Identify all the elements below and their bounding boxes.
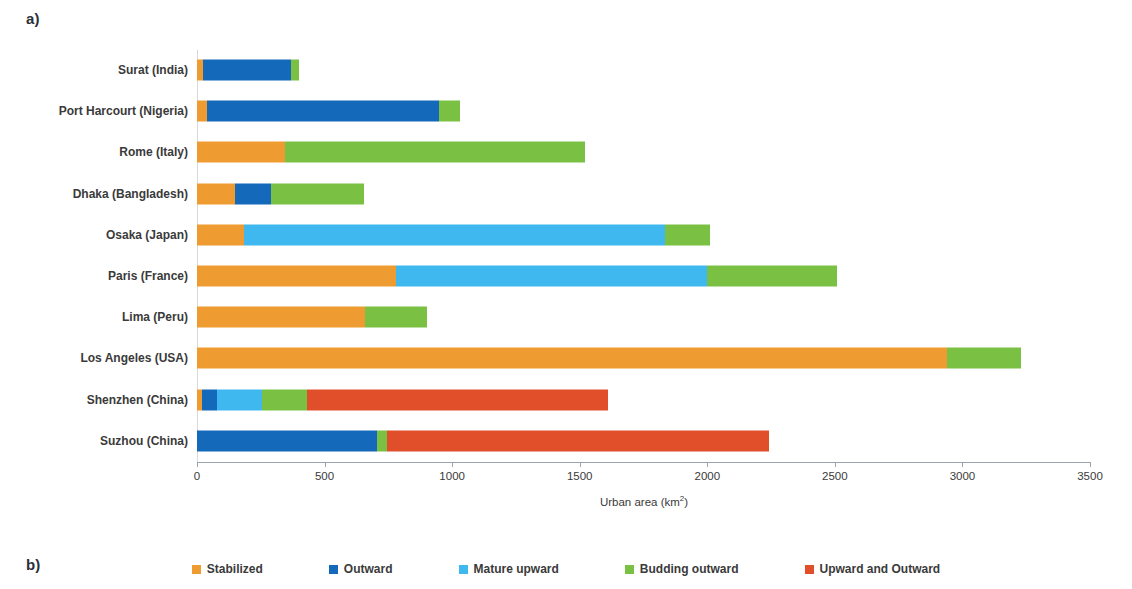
panel-a-label: a): [26, 10, 40, 27]
chart-row: Osaka (Japan): [0, 215, 1132, 255]
stacked-bar[interactable]: [197, 307, 427, 328]
stacked-bar[interactable]: [197, 430, 769, 451]
legend-label: Budding outward: [640, 562, 739, 576]
stacked-bar-chart: Surat (India)Port Harcourt (Nigeria)Rome…: [0, 42, 1132, 472]
category-label: Paris (France): [108, 269, 188, 283]
bar-segment[interactable]: [387, 430, 768, 451]
stacked-bar[interactable]: [197, 183, 364, 204]
category-label: Surat (India): [118, 63, 188, 77]
chart-row: Lima (Peru): [0, 297, 1132, 337]
bar-segment[interactable]: [271, 183, 364, 204]
bar-segment[interactable]: [307, 389, 608, 410]
legend-item[interactable]: Stabilized: [192, 562, 263, 576]
x-tick: [962, 462, 963, 467]
chart-row: Shenzhen (China): [0, 380, 1132, 420]
bar-segment[interactable]: [707, 266, 837, 287]
bar-segment[interactable]: [377, 430, 387, 451]
x-axis-title-tail: ): [684, 496, 688, 508]
stacked-bar[interactable]: [197, 142, 585, 163]
bar-segment[interactable]: [202, 389, 217, 410]
category-label: Lima (Peru): [122, 310, 188, 324]
legend-swatch-icon: [192, 565, 201, 574]
bar-segment[interactable]: [665, 224, 710, 245]
legend-label: Stabilized: [207, 562, 263, 576]
x-tick: [580, 462, 581, 467]
chart-row: Port Harcourt (Nigeria): [0, 91, 1132, 131]
bar-segment[interactable]: [197, 430, 377, 451]
legend-label: Upward and Outward: [820, 562, 941, 576]
stacked-bar[interactable]: [197, 224, 710, 245]
bar-segment[interactable]: [396, 266, 707, 287]
bar-segment[interactable]: [439, 101, 459, 122]
legend-item[interactable]: Upward and Outward: [805, 562, 941, 576]
bar-segment[interactable]: [235, 183, 271, 204]
bar-segment[interactable]: [197, 307, 365, 328]
chart-legend: StabilizedOutwardMature upwardBudding ou…: [0, 562, 1132, 576]
bar-segment[interactable]: [197, 224, 244, 245]
legend-item[interactable]: Budding outward: [625, 562, 739, 576]
category-label: Los Angeles (USA): [80, 351, 188, 365]
bar-segment[interactable]: [197, 348, 947, 369]
x-tick-label: 500: [315, 470, 334, 482]
category-label: Shenzhen (China): [87, 393, 188, 407]
bar-segment[interactable]: [244, 224, 665, 245]
bar-segment[interactable]: [947, 348, 1021, 369]
x-axis-title-base: Urban area (km: [600, 496, 680, 508]
bar-segment[interactable]: [207, 101, 439, 122]
bar-segment[interactable]: [217, 389, 262, 410]
x-tick: [707, 462, 708, 467]
legend-item[interactable]: Outward: [329, 562, 393, 576]
x-axis-title: Urban area (km2): [197, 494, 1091, 508]
legend-swatch-icon: [625, 565, 634, 574]
chart-row: Los Angeles (USA): [0, 338, 1132, 378]
x-tick-label: 3000: [950, 470, 976, 482]
bar-segment[interactable]: [197, 183, 235, 204]
legend-swatch-icon: [459, 565, 468, 574]
bar-segment[interactable]: [197, 101, 207, 122]
chart-row: Surat (India): [0, 50, 1132, 90]
x-tick: [325, 462, 326, 467]
bar-segment[interactable]: [285, 142, 585, 163]
stacked-bar[interactable]: [197, 348, 1021, 369]
stacked-bar[interactable]: [197, 266, 837, 287]
legend-label: Mature upward: [474, 562, 559, 576]
legend-item[interactable]: Mature upward: [459, 562, 559, 576]
x-tick: [452, 462, 453, 467]
x-tick-label: 1000: [439, 470, 465, 482]
category-label: Rome (Italy): [119, 145, 188, 159]
category-label: Dhaka (Bangladesh): [73, 187, 188, 201]
stacked-bar[interactable]: [197, 389, 608, 410]
category-label: Osaka (Japan): [106, 228, 188, 242]
chart-row: Dhaka (Bangladesh): [0, 174, 1132, 214]
bar-segment[interactable]: [203, 60, 291, 81]
legend-label: Outward: [344, 562, 393, 576]
bar-segment[interactable]: [197, 142, 285, 163]
x-tick-label: 2000: [694, 470, 720, 482]
chart-row: Suzhou (China): [0, 421, 1132, 461]
stacked-bar[interactable]: [197, 60, 299, 81]
x-tick: [835, 462, 836, 467]
x-tick: [197, 462, 198, 467]
bar-segment[interactable]: [197, 266, 396, 287]
x-tick-label: 1500: [567, 470, 593, 482]
category-label: Port Harcourt (Nigeria): [59, 104, 188, 118]
x-axis-line: [197, 462, 1091, 463]
chart-row: Rome (Italy): [0, 132, 1132, 172]
stacked-bar[interactable]: [197, 101, 460, 122]
bar-segment[interactable]: [262, 389, 307, 410]
x-tick-label: 2500: [822, 470, 848, 482]
x-tick-label: 3500: [1077, 470, 1103, 482]
legend-swatch-icon: [329, 565, 338, 574]
category-label: Suzhou (China): [100, 434, 188, 448]
panel-b-label: b): [26, 556, 41, 573]
chart-row: Paris (France): [0, 256, 1132, 296]
bar-segment[interactable]: [291, 60, 299, 81]
bar-segment[interactable]: [365, 307, 426, 328]
x-tick: [1090, 462, 1091, 467]
legend-swatch-icon: [805, 565, 814, 574]
x-tick-label: 0: [194, 470, 200, 482]
